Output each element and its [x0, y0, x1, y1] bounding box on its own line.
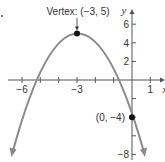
y-tick-label-neg8: −8: [118, 149, 130, 160]
curve-arrow-left-icon: [10, 148, 17, 158]
y-intercept-label: (0, −4): [96, 112, 125, 123]
vertex-label: Vertex: (−3, 5): [46, 6, 109, 17]
vertex-point: [74, 31, 80, 37]
parabola-chart: −6 −3 1 6 4 2 −8 y x Vertex: (−3, 5) (0,…: [0, 0, 165, 162]
panel-marker: [1, 15, 3, 17]
x-axis: [8, 77, 165, 83]
x-axis-label: x: [162, 83, 165, 95]
curve-arrow-right-icon: [140, 148, 147, 158]
y-intercept-point: [129, 114, 135, 120]
x-tick-label-neg6: −6: [16, 84, 28, 95]
y-tick-label-2: 2: [123, 56, 129, 67]
x-tick-label-neg3: −3: [71, 84, 83, 95]
y-axis-label: y: [121, 4, 127, 16]
y-tick-label-6: 6: [123, 19, 129, 30]
y-tick-label-4: 4: [123, 38, 129, 49]
y-axis: [130, 9, 137, 160]
x-tick-label-1: 1: [148, 84, 154, 95]
